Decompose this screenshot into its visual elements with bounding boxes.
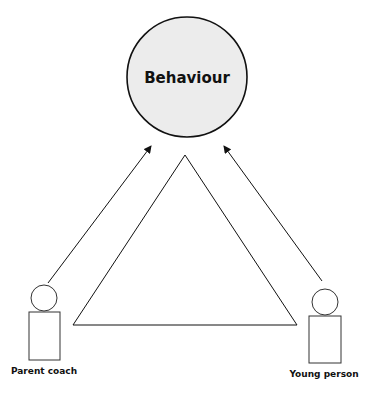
behaviour-node: Behaviour: [127, 17, 247, 137]
young-person-figure: Young person: [288, 289, 358, 379]
behaviour-diagram: Behaviour Parent coach Young person: [0, 0, 372, 393]
parent-head-icon: [31, 285, 57, 311]
parent-coach-label: Parent coach: [11, 366, 77, 376]
young-head-icon: [312, 289, 338, 315]
parent-body-icon: [29, 312, 60, 360]
parent-coach-figure: Parent coach: [11, 285, 77, 376]
arrow-young-to-behaviour: [224, 146, 322, 281]
behaviour-label: Behaviour: [144, 69, 230, 87]
arrow-parent-to-behaviour: [48, 146, 151, 283]
triangle: [73, 155, 297, 325]
young-body-icon: [309, 316, 341, 363]
young-person-label: Young person: [288, 369, 358, 379]
